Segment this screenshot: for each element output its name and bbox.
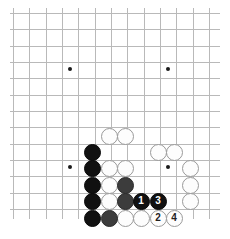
grid-line-horizontal xyxy=(10,95,220,96)
stone-white[interactable] xyxy=(117,210,134,227)
grid-line-horizontal xyxy=(10,111,220,112)
grid-line-vertical xyxy=(144,8,145,219)
stone-black[interactable] xyxy=(84,160,101,177)
stone-white[interactable] xyxy=(133,210,150,227)
grid-line-horizontal xyxy=(10,62,220,63)
stone-black[interactable] xyxy=(84,144,101,161)
grid-line-horizontal xyxy=(10,78,220,79)
grid-line-horizontal xyxy=(10,29,220,30)
stone-white[interactable] xyxy=(101,128,118,145)
grid-line-vertical xyxy=(46,8,47,219)
stone-move-number: 1 xyxy=(138,196,144,206)
stone-white[interactable] xyxy=(117,128,134,145)
grid-line-vertical xyxy=(29,8,30,219)
stone-black[interactable] xyxy=(84,177,101,194)
stone-white[interactable] xyxy=(101,177,118,194)
stone-black-move-3[interactable]: 3 xyxy=(150,193,167,210)
grid-line-horizontal xyxy=(10,46,220,47)
stone-white[interactable] xyxy=(182,193,199,210)
grid-line-vertical xyxy=(62,8,63,219)
stone-black-move-1[interactable]: 1 xyxy=(133,193,150,210)
grid-line-vertical xyxy=(209,8,210,219)
stone-white[interactable] xyxy=(117,160,134,177)
stone-move-number: 4 xyxy=(171,213,177,223)
grid-line-vertical xyxy=(13,8,14,219)
star-point-3 xyxy=(166,165,170,169)
grid-line-vertical xyxy=(78,8,79,219)
stone-black[interactable] xyxy=(84,193,101,210)
stone-white[interactable] xyxy=(101,193,118,210)
stone-black[interactable] xyxy=(84,210,101,227)
grid-line-vertical xyxy=(160,8,161,219)
stone-white[interactable] xyxy=(101,160,118,177)
stone-white-move-4[interactable]: 4 xyxy=(166,210,183,227)
star-point-1 xyxy=(166,67,170,71)
go-board[interactable]: 1324 xyxy=(0,0,230,239)
stone-white[interactable] xyxy=(182,160,199,177)
stone-gray[interactable] xyxy=(117,177,134,194)
grid-line-horizontal xyxy=(10,144,220,145)
stone-white[interactable] xyxy=(182,177,199,194)
stone-white[interactable] xyxy=(150,144,167,161)
star-point-2 xyxy=(68,165,72,169)
grid-line-horizontal xyxy=(10,127,220,128)
stone-white[interactable] xyxy=(166,144,183,161)
stone-white-move-2[interactable]: 2 xyxy=(150,210,167,227)
grid-line-horizontal xyxy=(10,13,220,14)
grid-line-vertical xyxy=(176,8,177,219)
stone-move-number: 2 xyxy=(155,213,161,223)
stone-move-number: 3 xyxy=(155,196,161,206)
stone-gray[interactable] xyxy=(101,210,118,227)
stone-gray[interactable] xyxy=(117,193,134,210)
star-point-0 xyxy=(68,67,72,71)
